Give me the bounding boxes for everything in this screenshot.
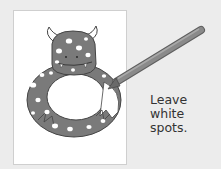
monster-drawing — [0, 0, 221, 169]
illustration-scene: Leave white spots. — [0, 0, 221, 169]
caption-line-1: Leave — [150, 93, 187, 107]
caption-line-2: white — [150, 107, 187, 121]
crayon-icon — [108, 29, 201, 89]
instruction-caption: Leave white spots. — [150, 93, 187, 135]
caption-line-3: spots. — [150, 121, 187, 135]
